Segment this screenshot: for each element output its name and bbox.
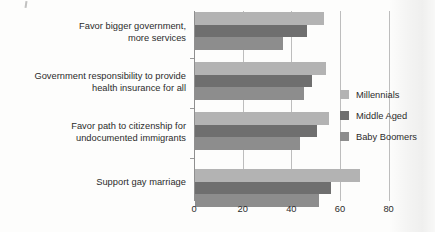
legend-swatch-icon-1	[340, 111, 349, 120]
legend-item-1: Middle Aged	[340, 105, 432, 126]
x-tick-label-80: 80	[383, 204, 393, 214]
bar-3-0	[195, 169, 360, 182]
category-label-2-line1: Favor path to citizenship for	[2, 121, 186, 133]
legend-label-0: Millennials	[356, 90, 399, 100]
category-label-0: Favor bigger government, more services	[2, 21, 186, 44]
bar-0-0	[195, 12, 324, 25]
legend-label-2: Baby Boomers	[356, 132, 417, 142]
category-label-3-line1: Support gay marriage	[2, 177, 186, 189]
category-label-3: Support gay marriage	[2, 177, 186, 189]
category-label-1-line1: Government responsibility to provide	[2, 71, 186, 83]
x-tick-label-0: 0	[191, 204, 196, 214]
bar-1-1	[195, 75, 312, 88]
category-label-2: Favor path to citizenship for undocument…	[2, 121, 186, 144]
category-label-1: Government responsibility to provide hea…	[2, 71, 186, 94]
x-tick-label-20: 20	[237, 204, 247, 214]
bar-2-1	[195, 125, 317, 138]
bar-1-2	[195, 87, 304, 100]
category-label-0-line1: Favor bigger government,	[2, 21, 186, 33]
chart-figure: Favor bigger government, more services G…	[0, 0, 435, 232]
legend-swatch-icon-2	[340, 132, 349, 141]
legend: MillennialsMiddle AgedBaby Boomers	[340, 84, 432, 147]
bar-3-1	[195, 182, 331, 195]
bar-2-2	[195, 137, 300, 150]
bar-1-0	[195, 62, 326, 75]
x-tick-label-60: 60	[335, 204, 345, 214]
bar-3-2	[195, 194, 319, 207]
legend-item-2: Baby Boomers	[340, 126, 432, 147]
y-tick-mark-2	[190, 158, 194, 159]
bar-0-1	[195, 25, 307, 38]
y-tick-mark-0	[190, 58, 194, 59]
legend-item-0: Millennials	[340, 84, 432, 105]
category-label-0-line2: more services	[2, 33, 186, 45]
bar-0-2	[195, 37, 283, 50]
legend-label-1: Middle Aged	[356, 111, 407, 121]
category-label-2-line2: undocumented immigrants	[2, 133, 186, 145]
category-label-column: Favor bigger government, more services G…	[0, 0, 186, 200]
category-label-1-line2: health insurance for all	[2, 83, 186, 95]
y-tick-mark-1	[190, 108, 194, 109]
legend-swatch-icon-0	[340, 90, 349, 99]
bar-2-0	[195, 112, 329, 125]
x-tick-label-40: 40	[286, 204, 296, 214]
